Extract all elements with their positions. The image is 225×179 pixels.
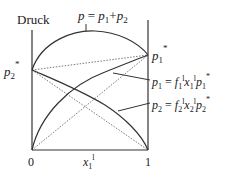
total-curve-label: p = p1+p2: [77, 8, 128, 25]
ideal-p2-line: [32, 70, 148, 150]
x-tick-1: 1: [145, 155, 151, 169]
p1-curve-label: p1 = f1lx1lp1*: [151, 72, 210, 91]
vapor-pressure-diagram: Druck p = p1+p2 p2* p1* p1 = f1lx1lp1* p…: [0, 0, 225, 179]
p2-star-label: p2*: [3, 59, 20, 81]
p1-star-label: p1*: [151, 43, 168, 65]
p2-curve-label: p2 = f2lx2lp2*: [151, 95, 210, 114]
y-axis-label: Druck: [17, 12, 50, 27]
p2-curve-leader: [118, 103, 150, 111]
ideal-p1-line: [32, 55, 148, 150]
ideal-total-line: [32, 55, 148, 70]
total-pressure-curve: [32, 31, 148, 70]
x-tick-0: 0: [28, 155, 34, 169]
x-axis-label: x1l: [82, 153, 95, 171]
